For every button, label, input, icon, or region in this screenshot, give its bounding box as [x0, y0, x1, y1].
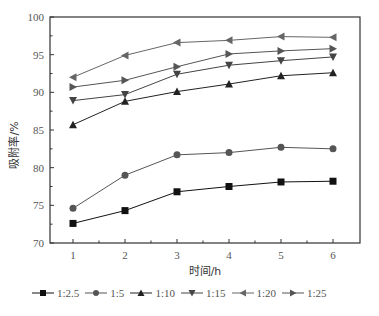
circle-marker-icon	[85, 288, 107, 298]
data-point-marker	[69, 73, 77, 81]
data-point-marker	[277, 33, 285, 41]
legend-label: 1:25	[307, 287, 327, 299]
legend-item: 1:15	[181, 287, 226, 299]
data-point-marker	[330, 145, 337, 152]
legend-item: 1:25	[282, 287, 327, 299]
y-tick-label: 90	[33, 86, 45, 98]
chart-legend: 1:2.51:51:101:151:201:25	[32, 287, 327, 299]
legend-label: 1:10	[155, 287, 175, 299]
legend-label: 1:5	[110, 287, 124, 299]
data-point-marker	[122, 207, 129, 214]
data-point-marker	[174, 188, 181, 195]
data-point-marker	[329, 33, 337, 41]
triangle-right-marker-icon	[282, 288, 304, 298]
y-tick-label: 95	[33, 49, 45, 61]
y-tick-label: 80	[33, 162, 45, 174]
x-axis-title: 时间/h	[189, 265, 222, 278]
legend-item: 1:5	[85, 287, 124, 299]
x-tick-label: 5	[278, 249, 284, 261]
data-point-marker	[121, 51, 129, 59]
y-tick-label: 100	[28, 11, 45, 23]
data-point-marker	[173, 71, 181, 79]
data-point-marker	[69, 97, 77, 105]
data-point-marker	[278, 144, 285, 151]
data-point-marker	[69, 121, 77, 129]
data-point-marker	[70, 83, 78, 91]
data-point-marker	[174, 151, 181, 158]
triangle-left-marker-icon	[232, 288, 254, 298]
x-tick-label: 4	[226, 249, 232, 261]
y-tick-label: 85	[33, 124, 45, 136]
line-chart: 707580859095100123456 吸附率/% 时间/h	[0, 0, 379, 316]
data-point-marker	[225, 36, 233, 44]
plot-series	[69, 33, 337, 227]
data-point-marker	[330, 45, 338, 53]
plot-axes: 707580859095100123456	[28, 11, 361, 261]
legend-label: 1:20	[257, 287, 277, 299]
y-axis-title: 吸附率/%	[7, 121, 21, 168]
x-tick-label: 2	[122, 249, 128, 261]
x-tick-label: 6	[330, 249, 336, 261]
data-point-marker	[278, 178, 285, 185]
legend-item: 1:20	[232, 287, 277, 299]
y-tick-label: 75	[33, 199, 45, 211]
legend-label: 1:2.5	[57, 287, 79, 299]
data-point-marker	[226, 149, 233, 156]
series-1-10	[69, 69, 337, 128]
series-1-5	[70, 144, 337, 212]
data-point-marker	[226, 183, 233, 190]
series-1-25	[70, 45, 338, 91]
data-point-marker	[173, 39, 181, 47]
square-marker-icon	[32, 288, 54, 298]
series-1-20	[69, 33, 337, 82]
data-point-marker	[122, 172, 129, 179]
data-point-marker	[174, 63, 182, 71]
y-tick-label: 70	[33, 237, 45, 249]
legend-item: 1:10	[130, 287, 175, 299]
data-point-marker	[330, 178, 337, 185]
data-point-marker	[226, 50, 234, 58]
triangle-up-marker-icon	[130, 288, 152, 298]
data-point-marker	[70, 220, 77, 227]
legend-item: 1:2.5	[32, 287, 79, 299]
data-point-marker	[122, 76, 130, 84]
triangle-down-marker-icon	[181, 288, 203, 298]
series-1-15	[69, 53, 337, 104]
data-point-marker	[278, 47, 286, 55]
x-tick-label: 3	[174, 249, 180, 261]
x-tick-label: 1	[70, 249, 76, 261]
legend-label: 1:15	[206, 287, 226, 299]
data-point-marker	[70, 205, 77, 212]
plot-frame	[50, 17, 360, 243]
